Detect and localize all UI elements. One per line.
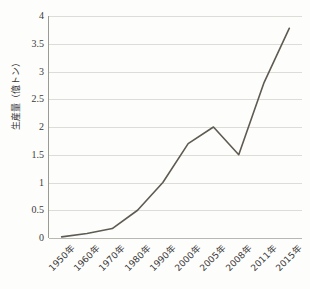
y-tick-label-3: 3 [12,67,44,77]
x-axis-tick-labels: 1950年1960年1970年1980年1990年2000年2005年2008年… [48,238,301,289]
y-tick-label-1.5: 1.5 [12,150,44,160]
y-tick-label-2: 2 [12,122,44,132]
y-tick-label-2.5: 2.5 [12,94,44,104]
y-tick-label-4: 4 [12,11,44,21]
y-axis-tick-labels: 00.511.522.533.54 [12,10,44,242]
series-polyline [62,28,290,237]
line-chart: 生産量（億トン） 00.511.522.533.54 1950年1960年197… [0,0,310,289]
y-tick-label-0.5: 0.5 [12,205,44,215]
plot-area [48,16,301,238]
series-line-production [49,16,302,238]
y-tick-label-3.5: 3.5 [12,39,44,49]
y-tick-label-0: 0 [12,233,44,243]
y-tick-label-1: 1 [12,178,44,188]
